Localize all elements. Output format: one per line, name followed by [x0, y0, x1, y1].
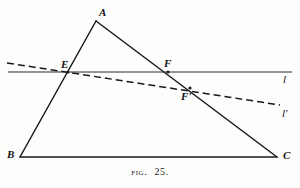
geometry-diagram	[0, 0, 300, 188]
caption-prefix: Fig.	[131, 166, 147, 177]
line-label-l: l	[283, 74, 286, 85]
line-l-prime	[7, 63, 280, 105]
point-label-a: A	[99, 7, 106, 18]
caption-number: 25.	[155, 166, 169, 177]
point-label-b: B	[7, 149, 14, 160]
figure-container: A B C E F F' l l' Fig.25.	[0, 0, 300, 188]
triangle-side-ab	[20, 21, 96, 157]
intersection-point-f	[167, 71, 170, 74]
figure-caption: Fig.25.	[0, 166, 300, 177]
line-label-l-prime: l'	[282, 108, 287, 119]
point-label-e: E	[61, 59, 68, 70]
intersection-point-e	[67, 71, 70, 74]
point-label-c: C	[283, 150, 290, 161]
point-label-f-prime: F'	[181, 91, 191, 102]
triangle-side-ac	[96, 21, 277, 157]
point-label-f: F	[164, 58, 171, 69]
